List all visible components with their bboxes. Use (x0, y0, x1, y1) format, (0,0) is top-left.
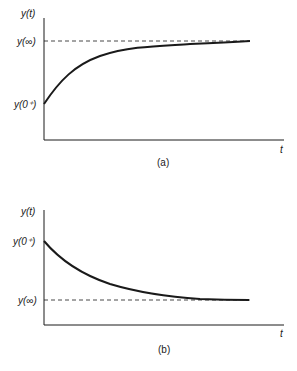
y-inf-label: y(∞) (17, 295, 37, 306)
x-axis-label: t (280, 328, 284, 339)
panel-caption: (b) (158, 344, 170, 355)
panel-a: y(t) y(∞) y(0⁺) t (a) (13, 8, 284, 168)
panel-caption: (a) (157, 157, 169, 168)
y-axis-label: y(t) (20, 8, 35, 19)
y-axis-label: y(t) (20, 206, 35, 217)
y-inf-label: y(∞) (16, 36, 36, 47)
x-axis-label: t (280, 144, 284, 155)
decaying-curve (44, 241, 249, 300)
panel-b: y(t) y(0⁺) y(∞) t (b) (12, 206, 284, 355)
y-0-label: y(0⁺) (12, 236, 35, 247)
rising-curve (44, 41, 250, 104)
figure: y(t) y(∞) y(0⁺) t (a) y(t) y(0⁺) y(∞) t … (0, 0, 297, 371)
y-0-label: y(0⁺) (13, 99, 36, 110)
